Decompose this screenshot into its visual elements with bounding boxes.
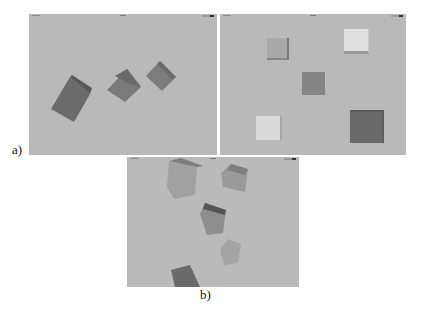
- cube-icon: [256, 116, 282, 140]
- figure-label-b: b): [200, 287, 211, 303]
- screenshot-panel-a-left: [29, 14, 217, 155]
- cube-icon: [220, 239, 241, 265]
- cube-icon: [146, 61, 176, 91]
- status-bar: [220, 14, 406, 18]
- screenshot-panel-b: [127, 157, 299, 287]
- cube-icon: [350, 110, 384, 143]
- figure-label-a: a): [12, 142, 22, 158]
- cube-icon: [302, 72, 325, 95]
- cube-icon: [221, 164, 248, 192]
- cube-icon: [51, 75, 92, 122]
- cube-icon: [171, 265, 200, 287]
- cube-icon: [267, 38, 289, 60]
- cube-scene: [29, 14, 217, 155]
- cube-icon: [167, 158, 203, 199]
- cube-icon: [107, 69, 141, 102]
- cube-icon: [200, 203, 226, 235]
- cube-scene: [127, 157, 299, 287]
- screenshot-panel-a-right: [220, 14, 406, 155]
- cube-icon: [344, 29, 369, 54]
